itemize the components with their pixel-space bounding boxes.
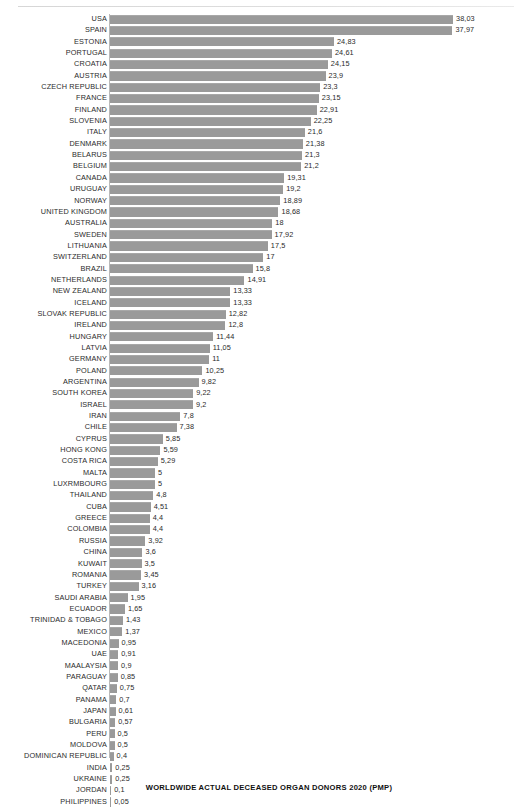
bar-row: DENMARK21,38 (0, 138, 520, 149)
category-label: DENMARK (0, 138, 107, 149)
bar (110, 344, 210, 353)
bar (110, 695, 116, 704)
bar (110, 264, 253, 273)
bar-row: SPAIN37,97 (0, 24, 520, 35)
category-label: CHINA (0, 546, 107, 557)
category-label: LUXRMBOURG (0, 478, 107, 489)
bar-track (110, 627, 122, 635)
value-label: 0,91 (121, 648, 136, 659)
category-label: TURKEY (0, 580, 107, 591)
bar (110, 434, 163, 443)
bar-track (110, 332, 213, 340)
bar-track (110, 423, 177, 431)
category-label: POLAND (0, 365, 107, 376)
bar-row: JAPAN0,61 (0, 705, 520, 716)
category-label: SWEDEN (0, 229, 107, 240)
bar-track (110, 412, 180, 420)
category-label: ISRAEL (0, 399, 107, 410)
value-label: 3,6 (145, 546, 155, 557)
category-label: USA (0, 13, 107, 24)
bar (110, 173, 284, 182)
bar (110, 26, 452, 35)
bar-track (110, 389, 193, 397)
bar-row: LATVIA11,05 (0, 342, 520, 353)
bar-track (110, 661, 118, 669)
value-label: 0,85 (121, 671, 136, 682)
category-label: PORTUGAL (0, 47, 107, 58)
bar-row: BELARUS21,3 (0, 149, 520, 160)
bar (110, 684, 117, 693)
category-label: LITHUANIA (0, 240, 107, 251)
bar-row: SLOVAK REPUBLIC12,82 (0, 308, 520, 319)
bar (110, 378, 199, 387)
value-label: 9,22 (196, 387, 211, 398)
bar-track (110, 741, 115, 749)
bar-row: URUGUAY19,2 (0, 183, 520, 194)
bar (110, 321, 225, 330)
bar-track (110, 37, 334, 45)
bar-track (110, 117, 311, 125)
value-label: 21,3 (305, 149, 320, 160)
category-label: HONG KONG (0, 444, 107, 455)
category-label: SOUTH KOREA (0, 387, 107, 398)
category-label: MEXICO (0, 626, 107, 637)
value-label: 23,15 (322, 92, 341, 103)
value-label: 5,29 (161, 455, 176, 466)
bar-row: MOLDOVA0,5 (0, 739, 520, 750)
category-label: LATVIA (0, 342, 107, 353)
bar-track (110, 639, 119, 647)
bar (110, 604, 125, 613)
value-label: 19,31 (287, 172, 306, 183)
bar-track (110, 775, 112, 783)
bar-track (110, 60, 328, 68)
bar-track (110, 230, 272, 238)
category-label: NEW ZEALAND (0, 285, 107, 296)
value-label: 0,5 (118, 739, 128, 750)
bar (110, 412, 180, 421)
value-label: 5,85 (166, 433, 181, 444)
category-label: MALTA (0, 467, 107, 478)
value-label: 21,6 (308, 126, 323, 137)
bar-track (110, 83, 320, 91)
value-label: 3,16 (142, 580, 157, 591)
bar-track (110, 752, 114, 760)
bar-track (110, 593, 128, 601)
category-label: GERMANY (0, 353, 107, 364)
value-label: 0,5 (118, 728, 128, 739)
bar (110, 83, 320, 92)
bar-row: AUSTRIA23,9 (0, 70, 520, 81)
bar-row: COSTA RICA5,29 (0, 455, 520, 466)
category-label: ARGENTINA (0, 376, 107, 387)
category-label: BELARUS (0, 149, 107, 160)
bar-track (110, 491, 153, 499)
bar (110, 37, 334, 46)
chart-title: WORLDWIDE ACTUAL DECEASED ORGAN DONORS 2… (0, 783, 520, 792)
bar (110, 230, 272, 239)
value-label: 0,95 (122, 637, 137, 648)
bar (110, 514, 150, 523)
bar-row: POLAND10,25 (0, 365, 520, 376)
bar-row: SWITZERLAND17 (0, 251, 520, 262)
bar-row: CZECH REPUBLIC23,3 (0, 81, 520, 92)
bar-track (110, 559, 142, 567)
value-label: 3,5 (145, 558, 155, 569)
bar-track (110, 480, 155, 488)
category-label: FRANCE (0, 92, 107, 103)
category-label: CANADA (0, 172, 107, 183)
bar (110, 797, 111, 806)
bar (110, 491, 153, 500)
bar-track (110, 684, 117, 692)
category-label: FINLAND (0, 104, 107, 115)
bar-track (110, 695, 116, 703)
bar (110, 650, 118, 659)
bar-track (110, 196, 280, 204)
bar-row: IRELAND12,8 (0, 319, 520, 330)
bar-row: NORWAY18,89 (0, 195, 520, 206)
value-label: 12,82 (229, 308, 248, 319)
category-label: QATAR (0, 682, 107, 693)
category-label: IRELAND (0, 319, 107, 330)
category-label: JAPAN (0, 705, 107, 716)
value-label: 0,7 (119, 694, 129, 705)
bar-row: SAUDI ARABIA1,95 (0, 592, 520, 603)
value-label: 17 (266, 251, 274, 262)
